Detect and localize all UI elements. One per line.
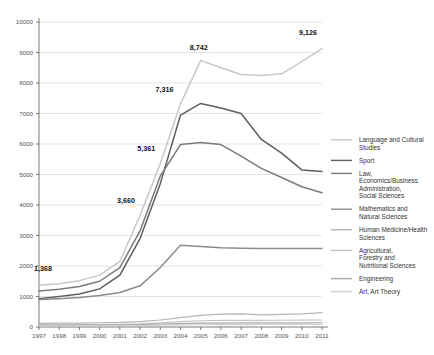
x-axis-tick-label: 2009: [275, 332, 289, 339]
x-axis-tick-label: 1998: [52, 332, 66, 339]
x-axis-tick-label: 2001: [113, 332, 127, 339]
y-axis-tick-label: 6000: [19, 140, 33, 147]
x-axis-tick-label: 2011: [315, 332, 329, 339]
data-label: 9,126: [299, 28, 317, 37]
series-line-1: [39, 103, 322, 298]
y-axis-tick-label: 10000: [16, 18, 34, 25]
data-label: 5,361: [137, 144, 155, 153]
y-axis-tick-label: 4000: [19, 201, 33, 208]
x-axis-tick-label: 1997: [32, 332, 46, 339]
legend-label-1: Sport: [359, 157, 374, 165]
series-line-0: [39, 49, 322, 286]
data-label: 8,742: [190, 43, 208, 52]
x-axis-tick-label: 2006: [214, 332, 228, 339]
data-label: 3,660: [117, 196, 135, 205]
legend-label-4: Human Medicine/HealthSciences: [359, 226, 428, 241]
legend-label-5: Agricultural,Forestry andNutritional Sci…: [359, 247, 415, 269]
x-axis-tick-label: 2008: [254, 332, 268, 339]
x-axis-tick-label: 2004: [174, 332, 188, 339]
x-axis-tick-label: 2002: [133, 332, 147, 339]
y-axis-tick-label: 8000: [19, 79, 33, 86]
y-axis-tick-label: 9000: [19, 49, 33, 56]
x-axis-tick-label: 1999: [73, 332, 87, 339]
legend-label-2: Law,Economics/BusinessAdministration,Soc…: [359, 170, 418, 200]
x-axis-tick-label: 2005: [194, 332, 208, 339]
legend-label-0: Language and CulturalStudies: [359, 136, 424, 151]
series-line-2: [39, 142, 322, 291]
legend-label-7: Art, Art Theory: [359, 288, 401, 296]
line-chart: 0100020003000400050006000700080009000100…: [0, 0, 434, 355]
y-axis-tick-label: 1000: [19, 293, 33, 300]
y-axis-tick-label: 7000: [19, 110, 33, 117]
chart-canvas: 0100020003000400050006000700080009000100…: [0, 0, 434, 355]
y-axis-tick-label: 5000: [19, 171, 33, 178]
x-axis-tick-label: 2003: [153, 332, 167, 339]
data-label: 7,316: [156, 85, 174, 94]
x-axis-tick-label: 2000: [93, 332, 107, 339]
x-axis-tick-label: 2010: [295, 332, 309, 339]
x-axis-tick-label: 2007: [234, 332, 248, 339]
legend-label-6: Engineering: [359, 275, 394, 283]
y-axis-tick-label: 3000: [19, 232, 33, 239]
legend-label-3: Mathematics andNatural Sciences: [359, 205, 408, 220]
series-line-3: [39, 245, 322, 299]
y-axis-tick-label: 2000: [19, 262, 33, 269]
y-axis-tick-label: 0: [30, 323, 34, 330]
data-label: 1,368: [34, 264, 52, 273]
